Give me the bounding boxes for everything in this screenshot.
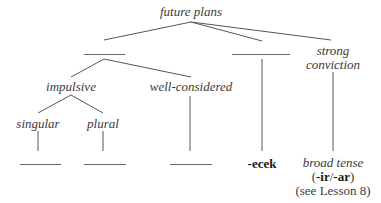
- label-conviction-line2: conviction: [306, 58, 360, 72]
- label-impulsive: impulsive: [46, 80, 96, 94]
- edge-impulsive-plural: [71, 95, 103, 113]
- blank-plural-answer: [84, 164, 126, 165]
- label-singular: singular: [16, 117, 59, 131]
- blank-singular-answer: [20, 164, 61, 165]
- answer-ecek-suffix: -ecek: [248, 157, 277, 171]
- label-strong-line1: strong: [306, 44, 360, 58]
- see-lesson-reference: (see Lesson 8): [295, 184, 370, 198]
- edge-impulsive-singular: [38, 95, 71, 113]
- blank-well-considered-answer: [170, 164, 212, 165]
- root-label-future-plans: future plans: [160, 5, 222, 19]
- future-plans-tree-diagram: future plans strong conviction impulsive…: [0, 0, 381, 203]
- edge-left-wellconsidered: [104, 59, 191, 77]
- label-well-considered: well-considered: [150, 80, 233, 94]
- suffix-ir: -ir: [316, 169, 330, 184]
- edge-root-middle: [191, 22, 262, 41]
- edge-root-left: [104, 22, 191, 40]
- label-plural: plural: [87, 117, 119, 131]
- blank-middle-branch: [232, 54, 290, 55]
- edge-left-impulsive: [71, 59, 104, 77]
- label-strong-conviction: strong conviction: [306, 44, 360, 72]
- broad-tense-label: broad tense: [295, 156, 370, 170]
- edge-root-right: [191, 22, 331, 40]
- blank-left-branch: [84, 54, 125, 55]
- answer-broad-tense: broad tense (-ir/-ar) (see Lesson 8): [295, 156, 370, 198]
- suffix-ar: -ar: [333, 169, 350, 184]
- paren-close: ): [350, 169, 354, 184]
- broad-tense-suffixes: (-ir/-ar): [295, 170, 370, 184]
